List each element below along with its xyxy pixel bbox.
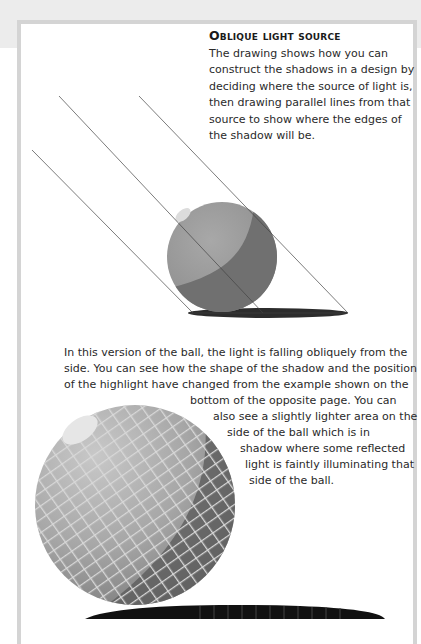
intro-line: construct the shadows in a design by	[209, 62, 409, 78]
intro-line: then drawing parallel lines from that	[209, 95, 409, 111]
body-line: light is faintly illuminating that	[245, 457, 414, 473]
body-line: shadow where some reflected	[240, 441, 405, 457]
mosaic-shadow	[85, 605, 385, 619]
body-line: side of the ball.	[249, 473, 334, 489]
body-line: side. You can see how the shape of the s…	[64, 361, 417, 377]
intro-line: source to show where the edges of	[209, 112, 409, 128]
intro-paragraph: The drawing shows how you can construct …	[209, 46, 409, 144]
body-line: of the highlight have changed from the e…	[64, 377, 409, 393]
intro-line: deciding where the source of light is,	[209, 79, 409, 95]
intro-line: the shadow will be.	[209, 128, 409, 144]
mosaic-ball	[30, 400, 240, 610]
body-line: side of the ball which is in	[227, 425, 370, 441]
section-heading: Oblique light source	[209, 28, 341, 43]
body-line: also see a slightly lighter area on the	[213, 409, 417, 425]
intro-line: The drawing shows how you can	[209, 46, 409, 62]
body-line: In this version of the ball, the light i…	[64, 345, 407, 361]
body-line: bottom of the opposite page. You can	[190, 393, 396, 409]
